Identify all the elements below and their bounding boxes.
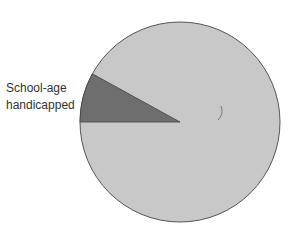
pie-chart	[0, 0, 294, 242]
slice-label-line1: School-age	[6, 80, 75, 97]
slice-label: School-age handicapped	[6, 80, 75, 114]
slice-label-line2: handicapped	[6, 97, 75, 114]
